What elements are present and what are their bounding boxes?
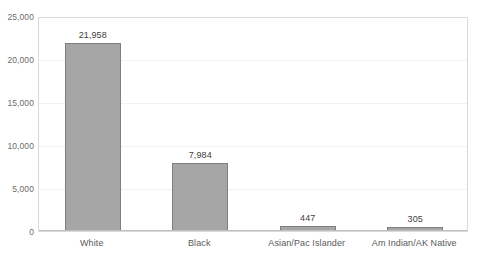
bar-white[interactable] (65, 43, 121, 231)
y-tick-label-20000: 20,000 (0, 56, 34, 65)
bar-slot-black: 7,984 (147, 18, 255, 231)
x-axis: White Black Asian/Pac Islander Am Indian… (38, 238, 468, 256)
x-tick-label-black: Black (188, 238, 211, 249)
bars-layer: 21,958 7,984 447 305 (39, 18, 467, 231)
bar-chart: 25,000 20,000 15,000 10,000 5,000 0 21,9… (0, 0, 479, 259)
x-tick-label-am-indian-ak-native: Am Indian/AK Native (372, 238, 457, 249)
bar-value-black: 7,984 (189, 150, 212, 160)
bar-slot-asian-pac-islander: 447 (254, 18, 362, 231)
y-tick-label-10000: 10,000 (0, 142, 34, 151)
x-axis-line (39, 230, 467, 231)
bar-slot-white: 21,958 (39, 18, 147, 231)
y-tick-label-0: 0 (0, 228, 34, 237)
y-tick-label-5000: 5,000 (0, 185, 34, 194)
bar-black[interactable] (172, 163, 228, 231)
plot-area: 21,958 7,984 447 305 (38, 17, 468, 232)
bar-value-asian-pac-islander: 447 (300, 213, 315, 223)
y-axis: 25,000 20,000 15,000 10,000 5,000 0 (0, 0, 34, 259)
bar-slot-am-indian-ak-native: 305 (362, 18, 470, 231)
bar-value-white: 21,958 (79, 30, 107, 40)
y-tick-label-25000: 25,000 (0, 13, 34, 22)
x-tick-label-white: White (80, 238, 104, 249)
y-tick-label-15000: 15,000 (0, 99, 34, 108)
x-tick-label-asian-pac-islander: Asian/Pac Islander (268, 238, 345, 249)
bar-value-am-indian-ak-native: 305 (408, 214, 423, 224)
